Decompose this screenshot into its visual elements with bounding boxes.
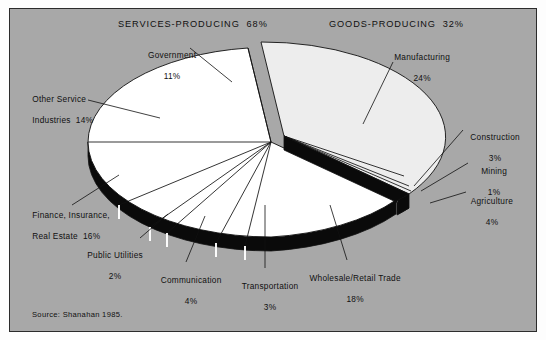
- label-agriculture-line2: 4%: [486, 217, 499, 227]
- label-government: Government 11%: [112, 40, 222, 92]
- label-government-line2: 11%: [164, 71, 181, 81]
- label-agriculture: Agriculture 4%: [448, 186, 526, 238]
- label-manufacturing-line2: 24%: [413, 73, 430, 83]
- label-agriculture-line1: Agriculture: [471, 196, 513, 206]
- header-goods-producing: GOODS-PRODUCING 32%: [329, 19, 464, 30]
- label-manufacturing: Manufacturing 24%: [372, 42, 462, 94]
- label-manufacturing-line1: Manufacturing: [394, 52, 450, 62]
- label-other-service-line2: Industries 14%: [32, 115, 93, 125]
- header-services-producing: SERVICES-PRODUCING 68%: [118, 19, 268, 30]
- label-wholesale-line2: 18%: [346, 294, 363, 304]
- label-communication-line2: 4%: [185, 296, 198, 306]
- label-other-service-line1: Other Service: [32, 94, 86, 104]
- label-transportation-line2: 3%: [264, 302, 277, 312]
- label-other-service-industries: Other Service Industries 14%: [22, 84, 122, 136]
- label-government-line1: Government: [148, 50, 196, 60]
- label-wholesale-retail-trade: Wholesale/Retail Trade 18%: [288, 263, 412, 315]
- source-note: Source: Shanahan 1985.: [32, 310, 123, 320]
- label-mining-line1: Mining: [481, 166, 507, 176]
- label-communication-line1: Communication: [161, 275, 222, 285]
- label-construction-line1: Construction: [470, 132, 520, 142]
- label-public-utilities-line1: Public Utilities: [87, 250, 143, 260]
- figure-panel: SERVICES-PRODUCING 68% GOODS-PRODUCING 3…: [0, 0, 546, 340]
- label-finance-line1: Finance, Insurance,: [32, 210, 110, 220]
- label-wholesale-line1: Wholesale/Retail Trade: [309, 273, 400, 283]
- label-public-utilities-line2: 2%: [109, 271, 122, 281]
